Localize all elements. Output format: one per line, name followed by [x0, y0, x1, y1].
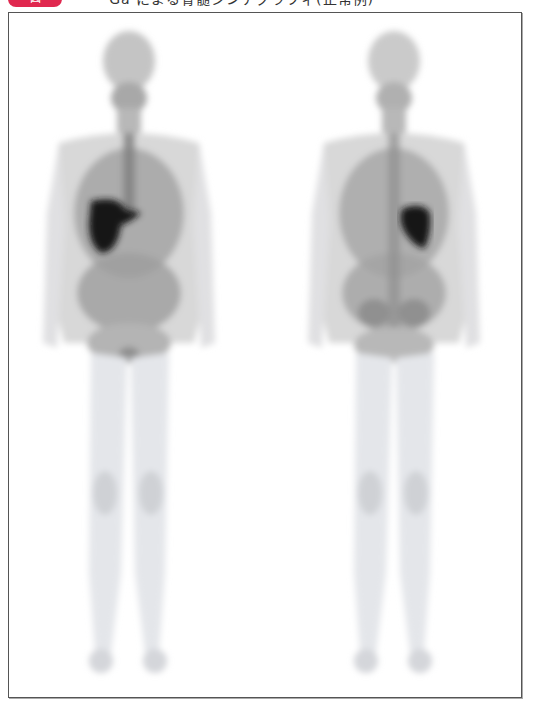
anterior-view-scan	[29, 13, 259, 697]
figure-badge: 図	[8, 0, 62, 7]
figure-caption-bar: 図 ⁶⁷Ga による骨髄シンチグラフィ(正常例)	[0, 0, 534, 9]
figure-caption: ⁶⁷Ga による骨髄シンチグラフィ(正常例)	[96, 0, 374, 7]
figure-frame	[8, 12, 522, 698]
posterior-view-scan	[294, 13, 524, 697]
